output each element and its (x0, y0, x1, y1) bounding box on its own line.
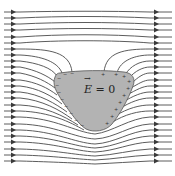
svg-text:−: − (69, 110, 73, 116)
svg-text:+: + (110, 113, 114, 119)
svg-text:−: − (55, 82, 59, 88)
svg-text:−: − (64, 103, 68, 109)
svg-text:+: + (122, 92, 126, 98)
equals-zero: = 0 (92, 83, 115, 96)
svg-text:−: − (63, 71, 67, 77)
svg-text:−: − (57, 89, 61, 95)
svg-text:+: + (118, 99, 122, 105)
svg-text:+: + (122, 73, 126, 79)
svg-text:+: + (101, 71, 105, 77)
svg-text:+: + (114, 106, 118, 112)
svg-text:−: − (57, 75, 61, 81)
svg-text:−: − (80, 122, 84, 128)
svg-text:−: − (60, 96, 64, 102)
svg-text:−: − (74, 117, 78, 123)
svg-text:+: + (114, 71, 118, 77)
svg-text:+: + (127, 78, 131, 84)
field-inside-label: E = 0 (84, 83, 115, 96)
field-diagram: −− −− −− −− −− ++ ++ ++ ++ ++ E = 0 (0, 0, 175, 176)
svg-text:−: − (70, 70, 74, 76)
svg-text:+: + (126, 85, 130, 91)
e-field-symbol: E (84, 83, 92, 96)
svg-text:+: + (105, 120, 109, 126)
